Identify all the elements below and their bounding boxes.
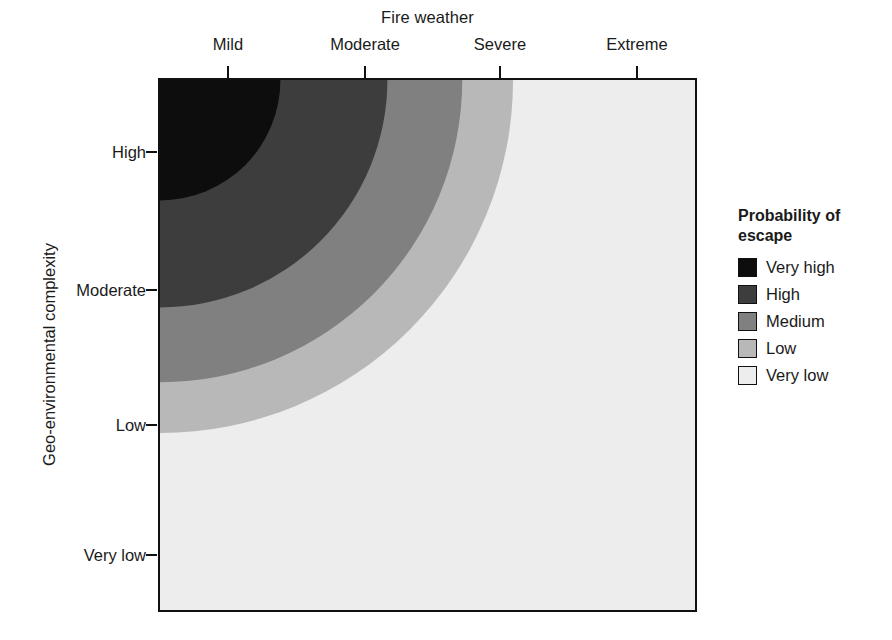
legend: Probability of escape Very high High Med… — [738, 206, 886, 389]
x-tick-label-moderate: Moderate — [330, 35, 400, 54]
legend-title: Probability of escape — [738, 206, 868, 247]
y-tick-mark-moderate — [146, 289, 157, 291]
legend-label-low: Low — [766, 339, 796, 358]
y-tick-mark-high — [146, 151, 157, 153]
legend-swatch-medium — [738, 312, 757, 331]
legend-item-low[interactable]: Low — [738, 335, 886, 362]
legend-item-high[interactable]: High — [738, 281, 886, 308]
plot-panel — [158, 78, 697, 612]
y-tick-label-very-low: Very low — [84, 546, 146, 565]
legend-item-very-high[interactable]: Very high — [738, 254, 886, 281]
x-tick-mark-mild — [227, 66, 229, 78]
probability-surface-svg — [160, 80, 695, 610]
y-tick-label-moderate: Moderate — [76, 281, 146, 300]
legend-swatch-high — [738, 285, 757, 304]
legend-label-medium: Medium — [766, 312, 825, 331]
legend-swatch-very-high — [738, 258, 757, 277]
y-axis-title: Geo-environmental complexity — [40, 88, 59, 622]
legend-swatch-low — [738, 339, 757, 358]
x-tick-mark-severe — [499, 66, 501, 78]
y-tick-label-high: High — [112, 143, 146, 162]
x-tick-label-severe: Severe — [474, 35, 526, 54]
legend-label-very-low: Very low — [766, 366, 828, 385]
x-tick-mark-extreme — [636, 66, 638, 78]
legend-item-medium[interactable]: Medium — [738, 308, 886, 335]
legend-item-very-low[interactable]: Very low — [738, 362, 886, 389]
figure-container: Fire weather Mild Moderate Severe Extrem… — [0, 0, 892, 640]
y-tick-mark-low — [146, 424, 157, 426]
legend-title-line1: Probability of — [738, 207, 840, 224]
legend-label-high: High — [766, 285, 800, 304]
x-tick-label-extreme: Extreme — [606, 35, 667, 54]
legend-title-line2: escape — [738, 227, 792, 244]
y-tick-label-low: Low — [116, 416, 146, 435]
x-tick-mark-moderate — [364, 66, 366, 78]
x-axis-title: Fire weather — [158, 8, 697, 27]
legend-label-very-high: Very high — [766, 258, 835, 277]
y-tick-mark-very-low — [146, 554, 157, 556]
legend-swatch-very-low — [738, 366, 757, 385]
x-tick-label-mild: Mild — [213, 35, 243, 54]
